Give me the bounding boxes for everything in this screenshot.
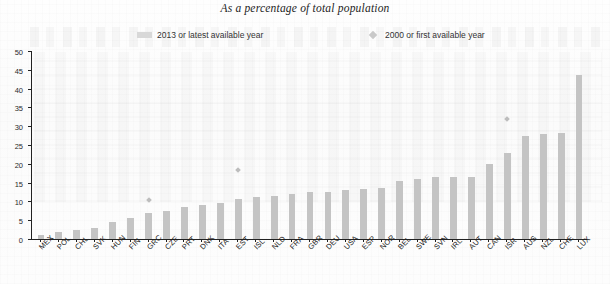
- bar: [181, 207, 188, 239]
- bar: [342, 190, 349, 239]
- bar-slot: [468, 51, 475, 239]
- bar-slot: [38, 51, 45, 239]
- bar-slot: [199, 51, 206, 239]
- bar: [396, 181, 403, 239]
- bar: [414, 179, 421, 239]
- bar: [432, 177, 439, 239]
- y-axis-tick-label: 0: [19, 237, 23, 244]
- bar: [253, 197, 260, 239]
- chart-legend: 2013 or latest available year 2000 or fi…: [0, 30, 610, 44]
- y-axis-tick-label: 35: [15, 105, 23, 112]
- bar: [378, 188, 385, 239]
- y-axis-tick-label: 25: [15, 143, 23, 150]
- bar: [486, 164, 493, 239]
- bar-slot: [396, 51, 403, 239]
- x-axis-labels: MEXPOLCHLSVKHUNFINGRCCZEPRTDNKITAESTISLN…: [31, 241, 587, 284]
- bar-slot: [217, 51, 224, 239]
- y-axis-tick-label: 30: [15, 124, 23, 131]
- legend-item-2000: 2000 or first available year: [366, 30, 485, 40]
- bar: [199, 205, 206, 239]
- bar-slot: [325, 51, 332, 239]
- bar-slot: [55, 51, 62, 239]
- bar: [450, 177, 457, 239]
- bar-slot: [432, 51, 439, 239]
- bar-slot: [486, 51, 493, 239]
- bar-slot: [360, 51, 367, 239]
- bar: [145, 213, 152, 239]
- bar-slot: [253, 51, 260, 239]
- bar-slot: [558, 51, 565, 239]
- bar: [540, 134, 547, 239]
- bar: [127, 218, 134, 239]
- bar-slot: [145, 51, 152, 239]
- bar: [468, 177, 475, 239]
- y-axis-tick-label: 15: [15, 180, 23, 187]
- bar-slot: [91, 51, 98, 239]
- bar-slot: [163, 51, 170, 239]
- y-axis-tick-label: 40: [15, 86, 23, 93]
- bar: [504, 153, 511, 239]
- bar-slot: [342, 51, 349, 239]
- bar: [307, 192, 314, 239]
- bar: [360, 189, 367, 239]
- bar-slot: [289, 51, 296, 239]
- y-axis-tick-label: 45: [15, 67, 23, 74]
- chart-container: As a percentage of total population 2013…: [0, 0, 610, 284]
- bar-slot: [522, 51, 529, 239]
- bar-slot: [181, 51, 188, 239]
- bar-slot: [73, 51, 80, 239]
- bar-slot: [414, 51, 421, 239]
- bar: [576, 75, 583, 239]
- bar-slot: [307, 51, 314, 239]
- bar: [522, 136, 529, 239]
- bar-slot: [450, 51, 457, 239]
- plot-area: [31, 52, 587, 240]
- bar: [235, 199, 242, 239]
- bar-slot: [504, 51, 511, 239]
- y-axis-labels: 05101520253035404550: [0, 52, 27, 240]
- y-axis-tick-label: 5: [19, 218, 23, 225]
- y-axis-tick-label: 20: [15, 161, 23, 168]
- y-axis-tick-label: 10: [15, 199, 23, 206]
- bar: [271, 196, 278, 239]
- legend-label-2013: 2013 or latest available year: [157, 30, 263, 40]
- bar: [558, 133, 565, 239]
- bar: [109, 222, 116, 239]
- legend-diamond-swatch-icon: [369, 31, 377, 39]
- bar-slot: [109, 51, 116, 239]
- bar-slot: [378, 51, 385, 239]
- bar: [217, 203, 224, 239]
- bar: [163, 211, 170, 239]
- chart-title: As a percentage of total population: [0, 2, 610, 14]
- bar: [289, 194, 296, 239]
- bar: [325, 192, 332, 239]
- legend-item-2013: 2013 or latest available year: [137, 30, 263, 40]
- bar-series-group: [32, 52, 587, 239]
- bar-slot: [576, 51, 583, 239]
- legend-label-2000: 2000 or first available year: [385, 30, 485, 40]
- bar-slot: [127, 51, 134, 239]
- y-axis-tick: [28, 239, 32, 240]
- bar-slot: [271, 51, 278, 239]
- y-axis-tick-label: 50: [15, 49, 23, 56]
- bar-slot: [235, 51, 242, 239]
- bar-slot: [540, 51, 547, 239]
- legend-bar-swatch-icon: [137, 32, 152, 38]
